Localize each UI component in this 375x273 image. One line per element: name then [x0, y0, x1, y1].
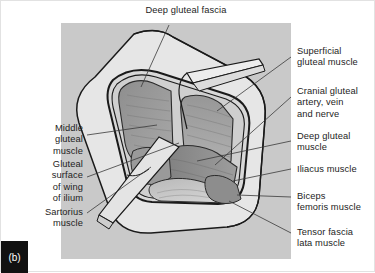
figure-tag: (b)	[1, 241, 28, 273]
label-sartorius-muscle: Sartorius muscle	[3, 207, 83, 230]
label-middle-gluteal-muscle: Middle gluteal muscle	[3, 123, 83, 157]
label-cranial-gluteal-artery-vein-and-nerve: Cranial gluteal artery, vein and nerve	[297, 86, 375, 120]
label-deep-gluteal-fascia: Deep gluteal fascia	[121, 5, 251, 16]
label-tensor-fascia-lata-muscle: Tensor fascia lata muscle	[297, 227, 375, 250]
label-superficial-gluteal-muscle: Superficial gluteal muscle	[297, 46, 375, 69]
label-iliacus-muscle: Iliacus muscle	[297, 164, 375, 175]
label-deep-gluteal-muscle: Deep gluteal muscle	[297, 131, 375, 154]
label-gluteal-surface-of-wing-of-ilium: Gluteal surface of wing of ilium	[3, 159, 83, 205]
label-biceps-femoris-muscle: Biceps femoris muscle	[297, 191, 375, 214]
